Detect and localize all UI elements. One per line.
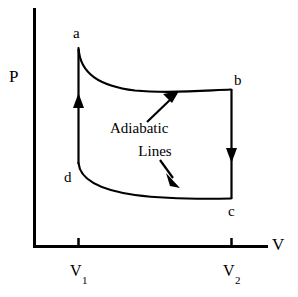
annotation-arrow-lower-head bbox=[166, 173, 180, 188]
tick-label-v2-base: V bbox=[223, 262, 235, 279]
tick-label-v1-base: V bbox=[70, 262, 82, 279]
tick-label-v2-subscript: 2 bbox=[235, 274, 241, 286]
arrowhead-down-right-branch bbox=[226, 148, 237, 163]
point-label-d: d bbox=[64, 169, 72, 185]
annotation-line-2: Lines bbox=[138, 143, 171, 159]
pv-diagram: P V V 1 V 2 Adiabatic Lines bbox=[0, 0, 298, 297]
annotation-arrow-lower-shaft bbox=[160, 160, 173, 178]
tick-label-v1: V 1 bbox=[70, 262, 88, 286]
arrowhead-up-left-branch bbox=[73, 93, 84, 108]
annotation-line-1: Adiabatic bbox=[110, 120, 169, 136]
x-axis-label: V bbox=[272, 235, 285, 254]
pv-diagram-canvas: P V V 1 V 2 Adiabatic Lines bbox=[0, 0, 298, 297]
tick-label-v1-subscript: 1 bbox=[82, 274, 88, 286]
y-axis-label: P bbox=[9, 67, 18, 86]
annotation-arrow-upper-shaft bbox=[147, 98, 172, 122]
point-label-b: b bbox=[234, 72, 242, 88]
annotation-arrows bbox=[147, 91, 180, 188]
point-label-c: c bbox=[228, 203, 235, 219]
curve-a-to-b bbox=[79, 48, 232, 92]
tick-label-v2: V 2 bbox=[223, 262, 241, 286]
point-label-a: a bbox=[73, 25, 80, 41]
curve-d-to-c bbox=[79, 163, 232, 199]
